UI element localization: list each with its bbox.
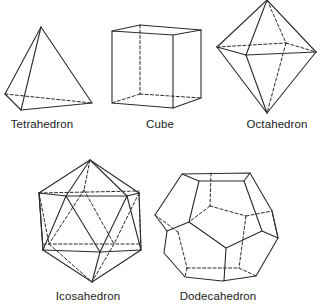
octahedron-label: Octahedron (246, 118, 307, 130)
icosahedron-drawing (39, 160, 141, 282)
tetrahedron-label: Tetrahedron (11, 118, 73, 130)
dodecahedron-label: Dodecahedron (180, 290, 257, 302)
dodecahedron-drawing (155, 173, 278, 281)
tetrahedron-drawing (5, 27, 92, 110)
icosahedron-label: Icosahedron (56, 290, 120, 302)
octahedron-drawing (217, 0, 316, 113)
cube-drawing (112, 25, 201, 108)
platonic-solids-diagram (0, 0, 326, 305)
cube-label: Cube (146, 118, 174, 130)
